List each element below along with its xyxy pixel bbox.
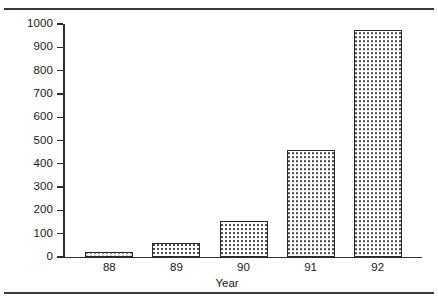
bar-88 [85, 252, 133, 257]
y-axis-tick-label: 600 [1, 111, 53, 123]
bar-91 [287, 150, 335, 257]
x-axis-tick-label: 92 [371, 262, 384, 274]
y-axis-tick-label: 1000 [1, 18, 53, 30]
bar-chart-figure: 01002003004005006007008009001000 8889909… [0, 0, 438, 305]
x-axis-tick-label: 91 [304, 262, 317, 274]
y-axis-tick-label: 200 [1, 204, 53, 216]
y-axis-tick-label: 500 [1, 135, 53, 147]
x-axis-tick-label: 90 [237, 262, 250, 274]
bottom-divider-rule [4, 292, 434, 294]
x-axis-tick-label: 89 [170, 262, 183, 274]
y-axis-tick-label: 900 [1, 41, 53, 53]
y-axis-tick-label: 700 [1, 88, 53, 100]
bar-89 [152, 243, 200, 257]
bar-92 [354, 30, 402, 257]
plot-area [63, 24, 422, 257]
bar-90 [220, 221, 268, 257]
y-axis-tick-label: 100 [1, 228, 53, 240]
x-axis-title: Year [0, 278, 438, 290]
y-axis-tick-label: 0 [1, 251, 53, 263]
y-axis-tick-label: 400 [1, 158, 53, 170]
y-axis-tick-label: 800 [1, 65, 53, 77]
y-axis-tick-label: 300 [1, 181, 53, 193]
x-axis-tick-label: 88 [103, 262, 116, 274]
top-divider-rule [4, 8, 434, 10]
x-axis-title-label: Year [215, 278, 238, 290]
